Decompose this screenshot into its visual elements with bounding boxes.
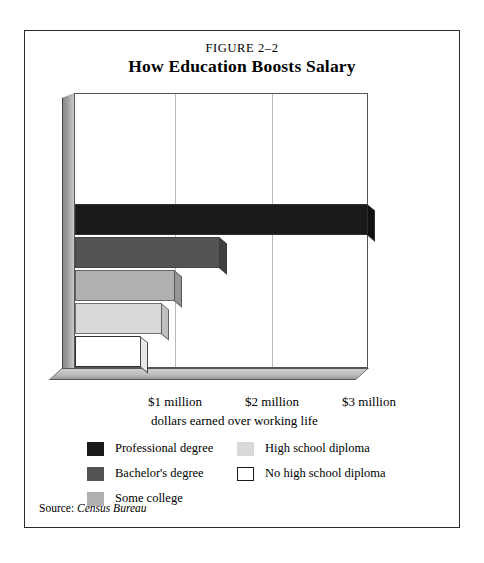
source-note: Source: Census Bureau (39, 501, 147, 515)
bar-face (75, 237, 220, 268)
x-tick-label-1-million: $1 million (148, 394, 202, 410)
chart-left-wall (62, 93, 74, 373)
bar-face (75, 204, 368, 235)
x-axis-label: dollars earned over working life (62, 413, 407, 429)
bar-chart (62, 89, 407, 389)
legend-label: Bachelor's degree (115, 466, 204, 481)
source-label: Source: (39, 502, 74, 514)
figure-title-block: FIGURE 2–2 How Education Boosts Salary (25, 41, 459, 77)
chart-floor (49, 368, 369, 380)
legend-item-no-high-school-diploma[interactable]: No high school diploma (237, 461, 385, 486)
bar-cap (367, 204, 375, 242)
figure-frame: FIGURE 2–2 How Education Boosts Salary (24, 30, 460, 528)
bar-face (75, 270, 175, 301)
legend-column-left: Professional degree Bachelor's degree So… (87, 436, 213, 511)
legend-swatch-professional-degree (87, 442, 104, 456)
bar-face (75, 336, 141, 367)
page-title: How Education Boosts Salary (25, 56, 459, 77)
legend-label: High school diploma (265, 441, 370, 456)
bar-professional-degree[interactable] (75, 204, 375, 235)
legend-label: No high school diploma (265, 466, 385, 481)
legend-item-professional-degree[interactable]: Professional degree (87, 436, 213, 461)
legend-swatch-high-school-diploma (237, 442, 254, 456)
bar-bachelors-degree[interactable] (75, 237, 227, 268)
bar-cap (219, 237, 227, 275)
bar-face (75, 303, 162, 334)
x-tick-label-3-million: $3 million (342, 394, 396, 410)
bar-cap (161, 303, 169, 341)
bar-some-college[interactable] (75, 270, 182, 301)
bar-cap (140, 336, 148, 374)
legend-label: Professional degree (115, 441, 213, 456)
legend-column-right: High school diploma No high school diplo… (237, 436, 385, 486)
legend-item-high-school-diploma[interactable]: High school diploma (237, 436, 385, 461)
legend-swatch-bachelors-degree (87, 467, 104, 481)
source-value: Census Bureau (77, 502, 147, 514)
x-axis-tick-labels: $1 million $2 million $3 million (62, 394, 462, 412)
bar-cap (174, 270, 182, 308)
x-tick-label-2-million: $2 million (245, 394, 299, 410)
bar-no-high-school-diploma[interactable] (75, 336, 148, 367)
legend-swatch-no-high-school-diploma (237, 467, 254, 481)
bar-high-school-diploma[interactable] (75, 303, 169, 334)
legend-item-bachelors-degree[interactable]: Bachelor's degree (87, 461, 213, 486)
figure-number: FIGURE 2–2 (25, 41, 459, 56)
